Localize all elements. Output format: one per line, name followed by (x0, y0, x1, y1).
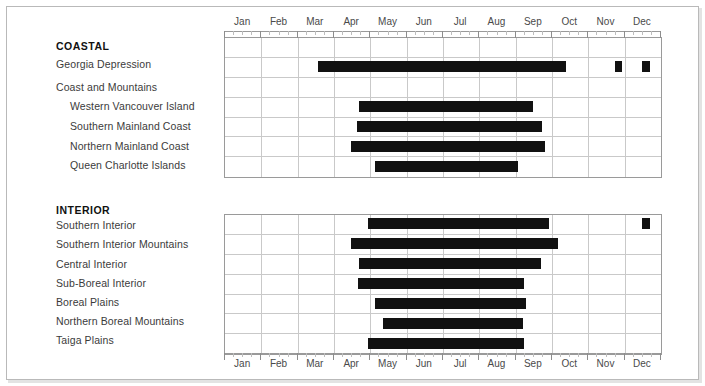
axis-tick (269, 353, 270, 357)
month-label: Sep (524, 358, 542, 369)
axis-tick (279, 31, 280, 35)
axis-tick (297, 31, 298, 38)
grid-line-vertical (298, 215, 299, 354)
axis-tick (251, 353, 252, 357)
bar-georgia-depression (318, 61, 566, 72)
grid-line-vertical (261, 38, 262, 177)
axis-tick (487, 31, 488, 35)
month-label: Apr (343, 16, 359, 27)
axis-tick (606, 353, 607, 357)
axis-tick (342, 353, 343, 357)
axis-tick (269, 31, 270, 35)
month-label: Jul (454, 16, 467, 27)
axis-tick (533, 31, 534, 35)
bar-queen-charlotte-islands (375, 161, 518, 172)
month-label: Nov (597, 16, 615, 27)
axis-tick (551, 31, 552, 38)
axis-tick (478, 31, 479, 38)
axis-tick (351, 353, 352, 357)
month-label: May (378, 16, 397, 27)
axis-tick (578, 31, 579, 35)
bar-western-vancouver-island (359, 101, 533, 112)
month-label: Oct (561, 16, 577, 27)
axis-tick (506, 31, 507, 35)
axis-tick (378, 31, 379, 35)
axis-tick (415, 31, 416, 35)
month-label: Nov (597, 358, 615, 369)
axis-tick (242, 353, 243, 357)
axis-tick (388, 31, 389, 35)
axis-tick (660, 353, 661, 360)
month-label: Sep (524, 16, 542, 27)
axis-tick (542, 31, 543, 35)
month-label: Jun (416, 358, 432, 369)
axis-tick (388, 353, 389, 357)
bar-northern-boreal-mountains (383, 318, 523, 329)
axis-tick (660, 31, 661, 38)
axis-tick (324, 31, 325, 35)
axis-tick (424, 353, 425, 357)
axis-tick (233, 31, 234, 35)
axis-tick (615, 31, 616, 35)
axis-tick (560, 353, 561, 357)
row-label: Boreal Plains (56, 296, 119, 308)
bar-sub-boreal-interior (358, 278, 524, 289)
axis-tick (578, 353, 579, 357)
axis-tick (242, 31, 243, 35)
bar-southern-mainland-coast (357, 121, 542, 132)
month-label: Feb (270, 16, 287, 27)
axis-tick (288, 31, 289, 35)
grid-line-vertical (552, 38, 553, 177)
axis-tick (542, 353, 543, 357)
bar-boreal-plains (375, 298, 525, 309)
row-label: Northern Mainland Coast (70, 140, 189, 152)
bar-central-interior (359, 258, 541, 269)
axis-tick (569, 353, 570, 357)
axis-tick (315, 353, 316, 357)
axis-tick (406, 31, 407, 38)
axis-tick (251, 31, 252, 35)
axis-tick (587, 31, 588, 38)
grid-line-vertical (298, 38, 299, 177)
axis-tick (651, 353, 652, 357)
grid-line-vertical (552, 215, 553, 354)
axis-tick (451, 353, 452, 357)
axis-tick (433, 31, 434, 35)
axis-tick (469, 31, 470, 35)
month-label: Dec (633, 16, 651, 27)
axis-tick (596, 31, 597, 35)
axis-tick (360, 31, 361, 35)
axis-tick (306, 31, 307, 35)
bar-southern-interior (368, 218, 549, 229)
axis-tick (497, 31, 498, 35)
row-label: Taiga Plains (56, 334, 114, 346)
row-label: Southern Mainland Coast (70, 120, 191, 132)
axis-tick (451, 31, 452, 35)
axis-tick (569, 31, 570, 35)
month-label: Jan (234, 16, 250, 27)
axis-tick (442, 31, 443, 38)
axis-tick (642, 31, 643, 35)
grid-line-vertical (625, 38, 626, 177)
axis-tick (560, 31, 561, 35)
bar-northern-mainland-coast (351, 141, 545, 152)
chart-page: COASTALGeorgia DepressionCoast and Mount… (0, 0, 705, 386)
grid-line-vertical (334, 215, 335, 354)
axis-tick (433, 353, 434, 357)
axis-tick (460, 353, 461, 357)
month-labels-bottom: JanFebMarAprMayJunJulAugSepOctNovDec (224, 358, 660, 372)
axis-tick (260, 31, 261, 38)
bar-georgia-depression (615, 61, 622, 72)
axis-tick (397, 31, 398, 35)
axis-tick (633, 31, 634, 35)
axis-tick (288, 353, 289, 357)
axis-tick (606, 31, 607, 35)
axis-tick (642, 353, 643, 357)
axis-tick (487, 353, 488, 357)
axis-tick (397, 353, 398, 357)
axis-tick (651, 31, 652, 35)
row-label: Southern Interior Mountains (56, 238, 188, 250)
axis-tick (633, 353, 634, 357)
row-label: Georgia Depression (56, 58, 151, 70)
month-label: Aug (488, 16, 506, 27)
